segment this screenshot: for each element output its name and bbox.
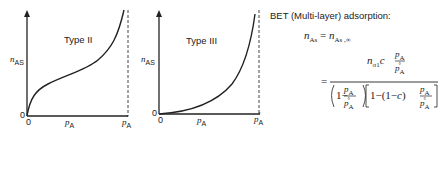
chart2-origin-x: 0 — [158, 115, 163, 125]
bet-numerator: nσ1c — [367, 54, 385, 69]
chart1-origin-y: 0 — [20, 110, 25, 120]
bet-den-pA1: pA — [344, 84, 354, 97]
bet-den-pA2: pA — [420, 84, 430, 97]
y-axis-arrow-icon — [156, 10, 162, 17]
chart1-sat-label: pA° — [122, 116, 134, 129]
chart2-origin-y: 0 — [152, 108, 157, 118]
bet-num-pA: pA — [395, 49, 405, 62]
chart1-title: Type II — [64, 34, 93, 45]
bet-den-psat2: pA° — [420, 97, 432, 111]
y-axis-arrow-icon — [24, 10, 30, 17]
bet-eq-sign: = — [321, 75, 327, 87]
chart1-y-label: nAS — [10, 54, 24, 66]
chart-type-ii — [24, 10, 128, 116]
bet-den-2: 1−(1−c) — [370, 89, 406, 101]
chart2-sat-label: pA° — [254, 113, 266, 126]
bet-line1: nAs = nAs ,∞ — [304, 29, 351, 44]
bet-heading: BET (Multi-layer) adsorption: — [270, 10, 391, 21]
chart2-x-label: pA — [197, 115, 206, 127]
chart1-origin-x: 0 — [26, 117, 31, 127]
chart2-y-label: nAS — [141, 54, 155, 66]
chart1-x-label: pA — [65, 117, 74, 129]
bet-den-psat1: pA° — [344, 97, 356, 111]
chart2-title: Type III — [186, 35, 217, 46]
chart-type-iii — [156, 10, 260, 114]
bet-num-psat: pA° — [395, 62, 407, 76]
isotherm-plots — [0, 0, 445, 176]
